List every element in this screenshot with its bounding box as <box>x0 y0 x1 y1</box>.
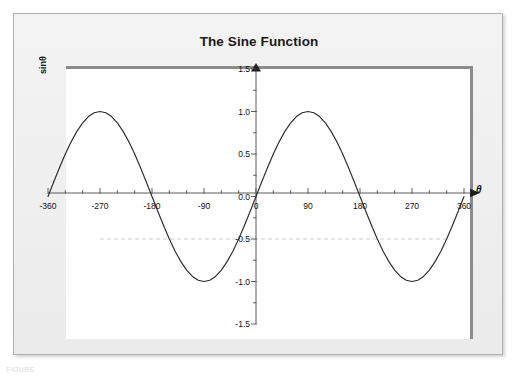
y-tick-label-neg1_5: -1.5 <box>222 319 250 329</box>
x-tick-label-270: 270 <box>405 201 419 211</box>
y-tick-label-0_0: 0.0 <box>222 192 250 202</box>
y-tick-label-neg1_0: -1.0 <box>222 277 250 287</box>
figure-caption: FIGURE <box>6 366 35 373</box>
x-tick-label-0: 0 <box>254 201 259 211</box>
x-axis-group <box>48 188 480 197</box>
x-tick-label-90: 90 <box>303 201 312 211</box>
y-tick-label-1_5: 1.5 <box>222 64 250 74</box>
chart-plot-svg <box>14 14 504 356</box>
x-tick-label-neg270: -270 <box>91 201 108 211</box>
y-tick-label-0_5: 0.5 <box>222 149 250 159</box>
y-axis-title: sinθ <box>38 56 48 74</box>
x-tick-label-neg360: -360 <box>39 201 56 211</box>
figure-frame: The Sine Function sinθ θ -360-270-180-90… <box>13 13 503 355</box>
x-tick-label-360: 360 <box>457 201 471 211</box>
x-tick-label-180: 180 <box>353 201 367 211</box>
y-tick-label-1_0: 1.0 <box>222 107 250 117</box>
figure-page: The Sine Function sinθ θ -360-270-180-90… <box>0 0 516 383</box>
y-tick-label-neg0_5: -0.5 <box>222 234 250 244</box>
x-tick-label-neg180: -180 <box>143 201 160 211</box>
x-tick-label-neg90: -90 <box>198 201 210 211</box>
y-axis-group <box>251 63 261 324</box>
x-axis-title: θ <box>476 184 482 195</box>
y-axis-arrowhead <box>251 63 261 72</box>
